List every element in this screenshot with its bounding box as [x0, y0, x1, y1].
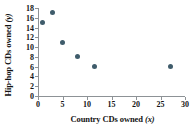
y-tick-label: 2	[30, 82, 34, 91]
y-tick-label: 6	[30, 62, 34, 71]
y-tick-label: 18	[26, 4, 34, 13]
x-tick-label: 30	[181, 100, 189, 109]
y-tick	[35, 86, 38, 87]
y-tick-label: 16	[26, 13, 34, 22]
data-point	[60, 40, 65, 45]
x-axis-variable: (x)	[145, 114, 155, 124]
x-tick-label: 15	[108, 100, 116, 109]
y-tick	[35, 76, 38, 77]
y-tick	[35, 47, 38, 48]
y-tick	[35, 57, 38, 58]
x-tick-label: 20	[132, 100, 140, 109]
x-tick-label: 10	[83, 100, 91, 109]
data-point	[40, 20, 45, 25]
x-axis-title: Country CDs owned (x)	[30, 114, 195, 124]
x-tick-label: 0	[36, 100, 40, 109]
y-tick-label: 4	[30, 72, 34, 81]
y-tick	[35, 28, 38, 29]
y-tick	[35, 37, 38, 38]
data-point	[75, 54, 80, 59]
y-tick	[35, 67, 38, 68]
y-axis-title-text: Hip-hop CDs owned	[3, 25, 13, 97]
scatter-chart: Hip-hop CDs owned (y) 024681012141618 05…	[0, 0, 195, 132]
data-point	[92, 64, 97, 69]
y-tick	[35, 18, 38, 19]
y-axis-line	[38, 8, 39, 96]
x-tick-label: 5	[61, 100, 65, 109]
y-axis-title: Hip-hop CDs owned (y)	[3, 5, 13, 105]
plot-area: 024681012141618 051015202530	[38, 8, 185, 96]
y-tick-label: 10	[26, 43, 34, 52]
y-tick-label: 0	[30, 92, 34, 101]
y-tick	[35, 8, 38, 9]
x-axis-title-text: Country CDs owned	[70, 114, 142, 124]
data-point	[50, 10, 55, 15]
data-point	[168, 64, 173, 69]
x-tick-label: 25	[157, 100, 165, 109]
y-tick-label: 12	[26, 33, 34, 42]
y-axis-variable: (y)	[3, 13, 13, 22]
y-tick-label: 14	[26, 23, 34, 32]
y-tick-label: 8	[30, 52, 34, 61]
